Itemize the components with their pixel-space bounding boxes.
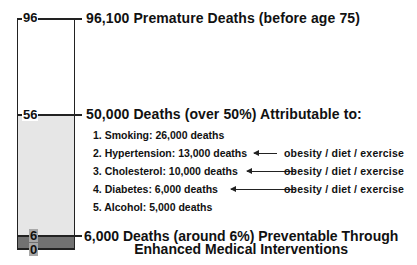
tick-line-6 bbox=[17, 235, 82, 237]
tick-label-96: 96 bbox=[22, 11, 38, 24]
tick-label-56: 56 bbox=[22, 108, 38, 121]
stacked-bar-frame bbox=[17, 18, 75, 249]
tick-label-6: 6 bbox=[29, 229, 38, 242]
bottom-heading: 6,000 Deaths (around 6%) Preventable Thr… bbox=[84, 230, 398, 256]
arrow-left-icon bbox=[254, 153, 277, 154]
risk-item-cholesterol: 3. Cholesterol: 10,000 deaths bbox=[93, 165, 238, 177]
cause-label-cholesterol: obesity / diet / exercise bbox=[284, 165, 404, 177]
risk-item-diabetes: 4. Diabetes: 6,000 deaths bbox=[93, 183, 218, 195]
cause-label-diabetes: obesity / diet / exercise bbox=[284, 183, 404, 195]
top-heading: 96,100 Premature Deaths (before age 75) bbox=[86, 11, 360, 26]
cause-label-hypertension: obesity / diet / exercise bbox=[284, 147, 404, 159]
risk-item-alcohol: 5. Alcohol: 5,000 deaths bbox=[93, 201, 212, 213]
risk-item-smoking: 1. Smoking: 26,000 deaths bbox=[93, 129, 224, 141]
mid-heading: 50,000 Deaths (over 50%) Attributable to… bbox=[86, 107, 362, 122]
bottom-heading-line2: Enhanced Medical Interventions bbox=[84, 243, 398, 256]
risk-item-hypertension: 2. Hypertension: 13,000 deaths bbox=[93, 147, 247, 159]
tick-label-0: 0 bbox=[29, 243, 38, 256]
tick-line-0 bbox=[17, 248, 75, 250]
